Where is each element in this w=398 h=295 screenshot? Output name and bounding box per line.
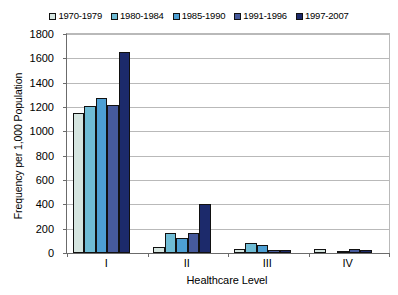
- x-tick-mark: [309, 253, 310, 257]
- y-tick-mark: [63, 58, 67, 59]
- x-category-label: III: [237, 258, 297, 269]
- y-tick-mark: [63, 83, 67, 84]
- y-tick-label: 1600: [0, 53, 54, 64]
- y-tick-mark: [63, 131, 67, 132]
- y-tick-label: 1200: [0, 102, 54, 113]
- bar[interactable]: [257, 245, 269, 253]
- x-category-label: I: [76, 258, 136, 269]
- x-category-label: II: [157, 258, 217, 269]
- plot-area: 020040060080010001200140016001800: [66, 33, 390, 254]
- bar[interactable]: [245, 243, 257, 253]
- bar[interactable]: [119, 52, 131, 253]
- y-tick-mark: [63, 156, 67, 157]
- y-tick-label: 400: [0, 199, 54, 210]
- y-tick-mark: [63, 204, 67, 205]
- bar-group: [153, 34, 211, 253]
- bar[interactable]: [360, 250, 372, 253]
- y-tick-mark: [63, 229, 67, 230]
- bar[interactable]: [73, 113, 85, 253]
- y-tick-mark: [63, 180, 67, 181]
- bar[interactable]: [153, 247, 165, 253]
- bar[interactable]: [280, 250, 292, 253]
- bar[interactable]: [337, 251, 349, 253]
- x-tick-mark: [67, 253, 68, 257]
- bar-chart: 1970-19791980-19841985-19901991-19961997…: [0, 0, 398, 295]
- bar[interactable]: [349, 249, 361, 253]
- y-tick-label: 200: [0, 223, 54, 234]
- bar[interactable]: [165, 233, 177, 253]
- y-tick-mark: [63, 107, 67, 108]
- x-tick-mark: [148, 253, 149, 257]
- y-tick-label: 800: [0, 150, 54, 161]
- bar[interactable]: [268, 250, 280, 253]
- x-category-label: IV: [318, 258, 378, 269]
- plot-wrapper: Frequency per 1,000 Population 020040060…: [0, 0, 398, 295]
- y-tick-label: 1400: [0, 77, 54, 88]
- bar[interactable]: [84, 106, 96, 253]
- x-tick-mark: [228, 253, 229, 257]
- y-tick-label: 0: [0, 248, 54, 259]
- bar[interactable]: [107, 105, 119, 253]
- bar[interactable]: [234, 249, 246, 253]
- x-axis-title: Healthcare Level: [66, 274, 388, 286]
- y-tick-label: 1800: [0, 29, 54, 40]
- bar[interactable]: [176, 238, 188, 253]
- x-tick-mark: [389, 253, 390, 257]
- y-tick-mark: [63, 34, 67, 35]
- bar[interactable]: [314, 249, 326, 253]
- y-tick-label: 600: [0, 175, 54, 186]
- bar[interactable]: [96, 98, 108, 253]
- bar-group: [314, 34, 372, 253]
- y-tick-label: 1000: [0, 126, 54, 137]
- bar[interactable]: [188, 233, 200, 253]
- bar[interactable]: [199, 204, 211, 253]
- bar-group: [234, 34, 292, 253]
- bar-group: [73, 34, 131, 253]
